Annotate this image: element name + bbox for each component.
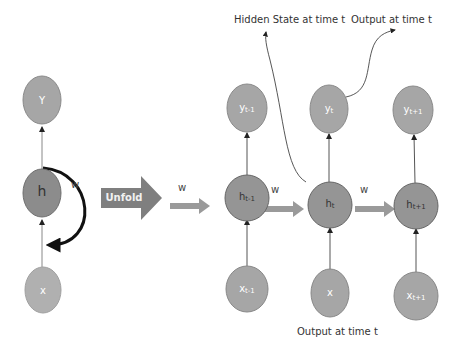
input-label-t-plus-1: xt+1 bbox=[407, 290, 426, 302]
weight-arrows bbox=[170, 198, 395, 217]
weight-label-3: w bbox=[360, 184, 368, 195]
input-label-t: x bbox=[327, 287, 333, 299]
output-label-t-plus-1: yt+1 bbox=[404, 104, 423, 116]
hidden-label-t-minus-1: ht-1 bbox=[239, 191, 255, 203]
output-label-t: yt bbox=[325, 103, 334, 115]
hidden-label-t: ht bbox=[325, 198, 334, 210]
output-label-t-minus-1: yt-1 bbox=[239, 102, 255, 114]
output-annotation-top: Output at time t bbox=[351, 14, 432, 25]
hidden-state-annotation: Hidden State at time t bbox=[234, 14, 345, 25]
weight-label-2: w bbox=[271, 184, 279, 195]
output-pointer bbox=[346, 30, 395, 97]
rnn-diagram-canvas bbox=[0, 0, 460, 352]
unfold-label: Unfold bbox=[103, 192, 145, 203]
folded-output-label: Y bbox=[39, 95, 45, 106]
folded-hidden-label: h bbox=[38, 183, 47, 199]
hidden-label-t-plus-1: ht+1 bbox=[406, 199, 425, 211]
folded-input-label: x bbox=[40, 285, 46, 296]
input-label-t-minus-1: xt-1 bbox=[239, 283, 255, 295]
output-annotation-bottom: Output at time t bbox=[297, 326, 378, 337]
hidden-state-pointer bbox=[266, 32, 306, 182]
weight-label-1: w bbox=[178, 182, 186, 193]
recurrent-weight-label: w bbox=[71, 179, 79, 190]
